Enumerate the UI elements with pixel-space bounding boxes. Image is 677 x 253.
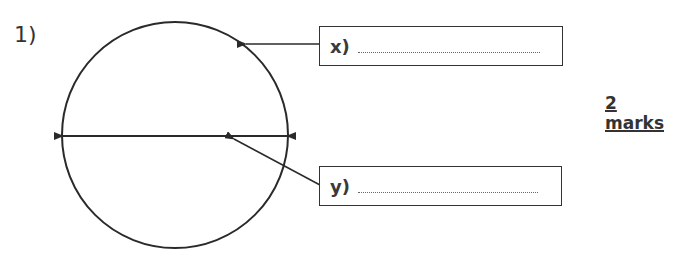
label-y-letter: y)	[330, 176, 350, 197]
marks-label: 2 marks	[605, 93, 677, 133]
arrow-y-to-diameter	[234, 139, 320, 185]
answer-line-x[interactable]	[358, 40, 540, 53]
label-x-letter: x)	[330, 36, 350, 57]
label-box-y[interactable]: y)	[319, 166, 562, 206]
label-box-x[interactable]: x)	[319, 26, 563, 66]
answer-line-y[interactable]	[358, 180, 538, 193]
